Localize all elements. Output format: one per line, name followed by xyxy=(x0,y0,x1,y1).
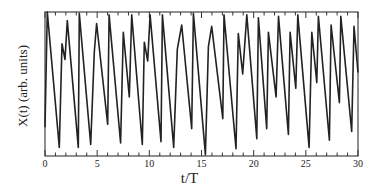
x-tick-label: 20 xyxy=(249,158,259,169)
x-tick-label: 30 xyxy=(353,158,363,169)
data-line xyxy=(45,12,358,155)
x-axis-label: t/T xyxy=(0,170,379,187)
x-axis-tick-labels: 051015202530 xyxy=(43,158,364,169)
x-tick-label: 0 xyxy=(43,158,48,169)
chart: 051015202530 xyxy=(0,0,379,193)
x-tick-label: 15 xyxy=(197,158,207,169)
x-tick-label: 5 xyxy=(95,158,100,169)
x-tick-label: 25 xyxy=(301,158,311,169)
x-tick-label: 10 xyxy=(144,158,154,169)
y-axis-label: X(t) (arb. units) xyxy=(15,21,31,151)
